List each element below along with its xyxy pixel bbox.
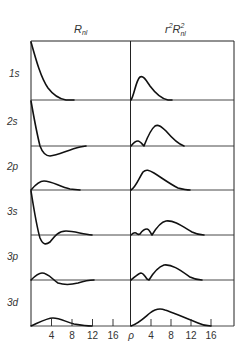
curve-R-2s xyxy=(31,101,86,156)
header-left-label: Rnl xyxy=(74,23,88,36)
curve-P-3s xyxy=(131,221,204,235)
curve-R-3s xyxy=(31,191,92,244)
row-labels: 1s 2s 2p 3s 3p 3d xyxy=(6,68,20,308)
rho-axis-label: ρ xyxy=(127,330,134,341)
curve-R-3p xyxy=(31,273,94,285)
curve-R-1s xyxy=(31,42,74,100)
curve-P-2p xyxy=(131,170,190,190)
tick-label-right-16: 16 xyxy=(205,330,217,341)
header-right-label: r2R2nl xyxy=(165,22,186,37)
tick-label-left-12: 12 xyxy=(87,330,99,341)
row-label-3d: 3d xyxy=(7,297,19,308)
tick-label-right-12: 12 xyxy=(185,330,197,341)
left-panel-curves xyxy=(31,42,94,326)
curve-R-3d xyxy=(31,318,92,326)
tick-label-right-8: 8 xyxy=(168,330,174,341)
curve-P-3p xyxy=(131,265,202,280)
row-baselines xyxy=(31,100,234,326)
row-label-2s: 2s xyxy=(6,116,18,127)
tick-label-left-8: 8 xyxy=(69,330,75,341)
tick-label-left-4: 4 xyxy=(49,330,55,341)
row-label-3s: 3s xyxy=(7,206,18,217)
row-label-3p: 3p xyxy=(7,251,19,262)
row-label-1s: 1s xyxy=(9,68,20,79)
tick-label-left-16: 16 xyxy=(107,330,119,341)
curve-P-2s xyxy=(131,125,184,146)
tick-label-right-4: 4 xyxy=(148,330,154,341)
curve-P-1s xyxy=(131,77,172,100)
curve-R-2p xyxy=(31,181,80,190)
row-label-2p: 2p xyxy=(6,161,19,172)
radial-functions-figure: Rnl r2R2nl 1s 2s 2p 3s 3p 3d xyxy=(0,0,247,356)
x-axis-tick-labels: 4 8 12 16 ρ 4 8 12 16 xyxy=(49,330,217,341)
right-panel-curves xyxy=(131,77,211,326)
